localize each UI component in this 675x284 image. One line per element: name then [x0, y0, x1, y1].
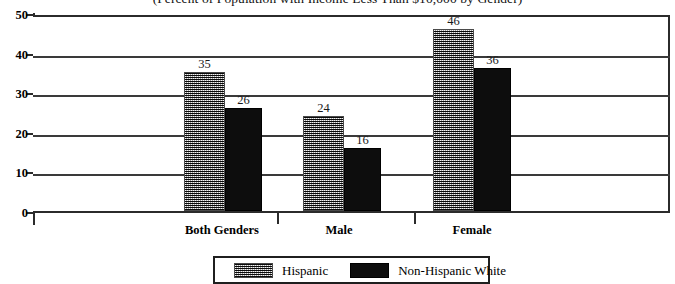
legend-swatch-hispanic [234, 263, 273, 278]
x-axis-label-female: Female [402, 224, 542, 237]
bar-value-label: 46 [427, 15, 480, 28]
y-axis-label: 40 [0, 49, 28, 62]
legend-label-non-hispanic-white: Non-Hispanic White [398, 264, 506, 277]
x-axis-separator-tick [277, 213, 279, 224]
y-axis-label: 0 [0, 207, 28, 220]
gridline [33, 95, 670, 97]
bar-value-label: 36 [468, 54, 517, 67]
plot-area [33, 15, 670, 213]
y-axis-label: 30 [0, 88, 28, 101]
bar-value-label: 24 [297, 102, 350, 115]
y-axis-label: 10 [0, 167, 28, 180]
x-axis-separator-tick [414, 213, 416, 224]
legend-item-non-hispanic-white: Non-Hispanic White [350, 258, 506, 282]
legend-label-hispanic: Hispanic [282, 264, 328, 277]
legend-swatch-non-hispanic-white [350, 263, 389, 278]
bar-chart: (Percent of Population with Income Less … [0, 0, 675, 284]
bar-non-hispanic-white-both-genders [225, 108, 262, 211]
bar-value-label: 26 [219, 94, 268, 107]
bar-hispanic-male [303, 116, 344, 211]
bar-value-label: 35 [178, 58, 231, 71]
x-axis-label-male: Male [269, 224, 409, 237]
bar-non-hispanic-white-female [474, 68, 511, 211]
chart-legend: Hispanic Non-Hispanic White [213, 256, 490, 284]
chart-title: (Percent of Population with Income Less … [0, 0, 675, 7]
bar-non-hispanic-white-male [344, 148, 381, 211]
gridline [33, 56, 670, 58]
bar-value-label: 16 [338, 134, 387, 147]
y-axis-label: 50 [0, 9, 28, 22]
legend-item-hispanic: Hispanic [234, 258, 328, 282]
y-axis-label: 20 [0, 128, 28, 141]
